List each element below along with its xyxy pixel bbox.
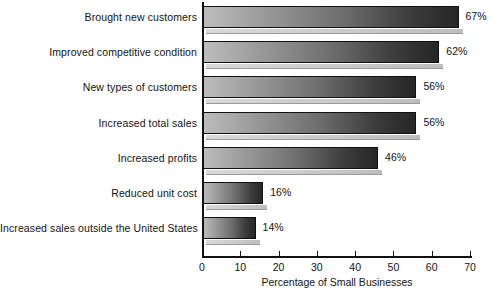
bar-shadow [206,205,267,210]
bar-group: 14% [202,217,503,247]
x-tick [355,251,356,257]
x-tick-label: 50 [378,261,408,273]
bar [202,76,416,98]
bar-value-label: 14% [263,221,284,233]
bar-group: 62% [202,41,503,71]
x-tick [470,251,471,257]
x-tick-label: 10 [225,261,255,273]
bar-shadow [206,240,260,245]
category-axis-labels: Brought new customersImproved competitiv… [0,0,197,257]
category-label: Brought new customers [0,11,197,23]
bar-chart: Brought new customersImproved competitiv… [0,0,503,293]
x-axis-title: Percentage of Small Businesses [202,276,472,288]
x-tick [393,251,394,257]
bar-shadow [206,135,420,140]
bar-value-label: 46% [385,151,406,163]
x-tick [432,251,433,257]
bar-value-label: 56% [423,80,444,92]
bar [202,112,416,134]
category-label: Improved competitive condition [0,46,197,58]
x-tick-label: 30 [302,261,332,273]
x-tick [317,251,318,257]
x-tick-label: 70 [455,261,485,273]
x-tick [279,251,280,257]
bar-shadow [206,170,382,175]
bar-group: 56% [202,76,503,106]
x-tick-label: 60 [417,261,447,273]
bar-value-label: 67% [466,10,487,22]
x-tick [202,251,203,257]
category-label: Increased sales outside the United State… [0,222,197,234]
x-tick-label: 40 [340,261,370,273]
bar [202,6,459,28]
x-tick [240,251,241,257]
category-label: Reduced unit cost [0,187,197,199]
category-label: Increased total sales [0,117,197,129]
bar-value-label: 56% [423,116,444,128]
bar [202,41,439,63]
bar-group: 67% [202,6,503,36]
bar-shadow [206,29,463,34]
bar-value-label: 16% [270,186,291,198]
x-tick-label: 20 [264,261,294,273]
bar [202,217,256,239]
bar-group: 16% [202,182,503,212]
bar [202,182,263,204]
bar-group: 46% [202,147,503,177]
bar-shadow [206,99,420,104]
bar-shadow [206,64,443,69]
bar [202,147,378,169]
y-axis-line [202,2,204,257]
plot-area: 67%62%56%56%46%16%14% [202,0,503,257]
bar-group: 56% [202,112,503,142]
bar-value-label: 62% [446,45,467,57]
category-label: New types of customers [0,81,197,93]
x-tick-label: 0 [187,261,217,273]
category-label: Increased profits [0,152,197,164]
